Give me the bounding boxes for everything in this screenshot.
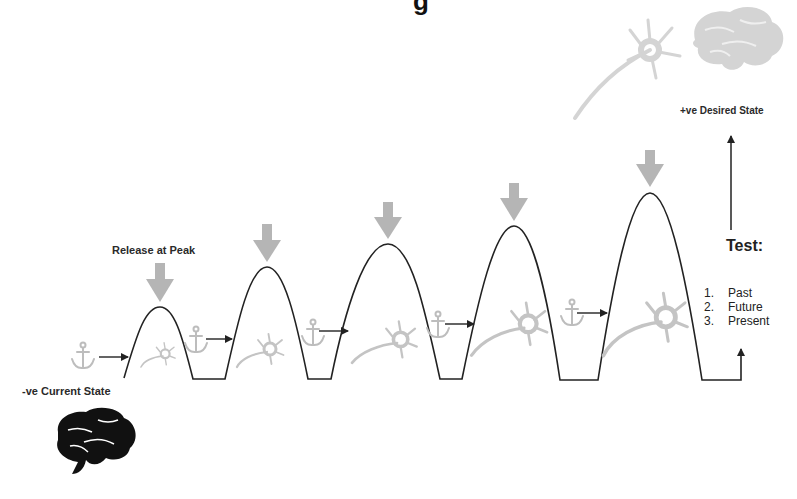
neuron-icon <box>603 293 687 355</box>
test-step-number: 1. <box>704 286 728 300</box>
release-arrows <box>146 150 664 302</box>
down-arrow-icon <box>374 202 402 239</box>
test-step-number: 2. <box>704 300 728 314</box>
neuron-icon <box>472 303 548 356</box>
test-step-text: Past <box>728 286 752 300</box>
anchor-icon <box>561 300 583 326</box>
test-step: 3. Present <box>704 314 769 328</box>
neuron-icon <box>141 343 175 367</box>
brain-icon <box>57 408 136 474</box>
anchors <box>72 300 583 369</box>
test-step: 2. Future <box>704 300 769 314</box>
brain-icon <box>693 7 783 70</box>
title-fragment: g <box>413 0 429 17</box>
test-step-number: 3. <box>704 314 728 328</box>
test-steps-list: 1. Past 2. Future 3. Present <box>704 286 769 328</box>
test-step-text: Present <box>728 314 769 328</box>
anchor-icon <box>185 327 207 353</box>
neuron-icon <box>352 321 417 362</box>
test-step: 1. Past <box>704 286 769 300</box>
test-step-text: Future <box>728 300 763 314</box>
down-arrow-icon <box>146 263 174 302</box>
test-heading: Test: <box>726 237 763 255</box>
anchor-icon <box>72 343 94 369</box>
current-state-label: -ve Current State <box>22 385 111 397</box>
neuron-icon <box>237 334 284 367</box>
desired-state-label: +ve Desired State <box>680 105 764 116</box>
anchor-icon <box>302 320 324 346</box>
diagram-canvas: g Release at Peak -ve Current State +ve … <box>0 0 797 499</box>
release-at-peak-label: Release at Peak <box>112 244 195 256</box>
down-arrow-icon <box>636 150 664 187</box>
progress-curve <box>124 193 741 380</box>
down-arrow-icon <box>253 224 281 262</box>
desired-neuron <box>575 20 680 118</box>
down-arrow-icon <box>500 183 528 221</box>
